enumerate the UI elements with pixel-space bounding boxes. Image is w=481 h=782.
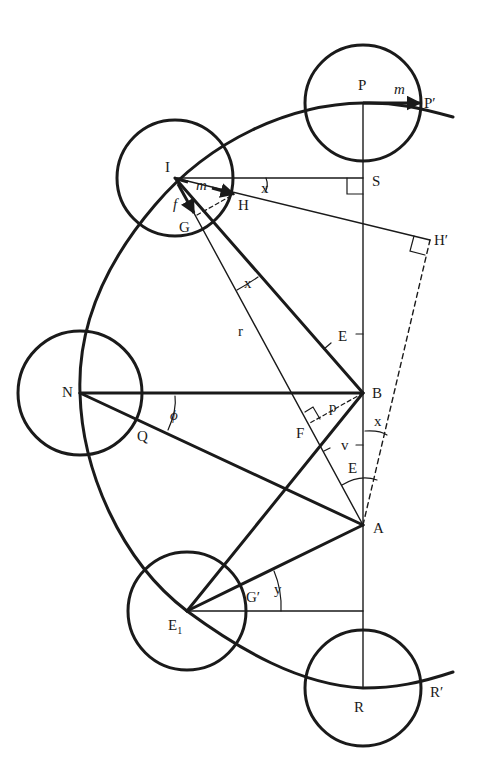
- label-N: N: [62, 384, 73, 400]
- label-H-prime: H′: [434, 232, 448, 248]
- line-AE1: [187, 525, 363, 611]
- label-P: P: [358, 77, 366, 93]
- dashed-BF: [310, 393, 363, 423]
- angle-E-low: [342, 478, 377, 485]
- label-E-mid: E: [338, 328, 347, 344]
- right-angle-F: [305, 407, 320, 419]
- label-x-mid: x: [244, 275, 252, 291]
- label-R-prime: R′: [430, 684, 443, 700]
- tick-E-IB: [324, 343, 331, 349]
- label-G: G: [179, 219, 190, 235]
- tick-v-r: [324, 448, 330, 451]
- label-v: v: [341, 437, 349, 453]
- diagram-svg: P m P′ I S m x H f G H′ x r E N B ϕ p F …: [0, 0, 481, 782]
- label-p: p: [329, 399, 337, 415]
- line-IB: [175, 178, 363, 393]
- line-r-IA: [175, 178, 363, 525]
- label-f: f: [173, 196, 179, 212]
- label-E1: E1: [168, 617, 182, 636]
- label-S: S: [372, 173, 380, 189]
- right-angle-S: [347, 178, 363, 194]
- label-x-low: x: [374, 413, 382, 429]
- label-m-top: m: [394, 81, 405, 97]
- line-NA: [80, 393, 363, 525]
- label-G-prime: G′: [246, 589, 260, 605]
- label-H: H: [238, 197, 249, 213]
- label-R: R: [354, 699, 364, 715]
- orbital-geometry-diagram: P m P′ I S m x H f G H′ x r E N B ϕ p F …: [0, 0, 481, 782]
- label-phi: ϕ: [170, 407, 178, 423]
- label-y: y: [274, 581, 282, 597]
- label-P-prime: P′: [424, 95, 436, 111]
- label-F: F: [296, 425, 304, 441]
- label-I: I: [165, 159, 170, 175]
- label-B: B: [372, 385, 382, 401]
- label-r: r: [238, 323, 243, 339]
- label-m-mid: m: [196, 177, 207, 193]
- line-BE1: [187, 393, 363, 611]
- label-E-low: E: [348, 460, 357, 476]
- dashed-AH-prime: [363, 240, 430, 525]
- label-A: A: [373, 520, 384, 536]
- label-x-top: x: [261, 180, 269, 196]
- label-Q: Q: [137, 428, 148, 444]
